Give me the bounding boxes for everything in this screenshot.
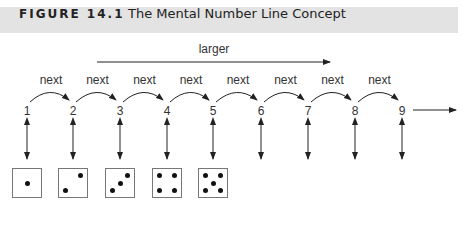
number-to-quantity-links xyxy=(27,124,402,159)
number-5: 5 xyxy=(210,104,217,118)
next-arc-7 xyxy=(311,92,351,102)
pip xyxy=(172,188,177,193)
pip xyxy=(172,173,177,178)
pip xyxy=(203,188,208,193)
die-2 xyxy=(58,168,88,198)
next-arc-3 xyxy=(123,92,163,102)
number-3: 3 xyxy=(117,104,124,118)
pip xyxy=(125,173,130,178)
pip xyxy=(157,173,162,178)
pip xyxy=(63,188,68,193)
next-label: next xyxy=(227,73,250,87)
next-arc-2 xyxy=(76,92,116,102)
number-6: 6 xyxy=(258,104,265,118)
next-label: next xyxy=(133,73,156,87)
die-4 xyxy=(152,168,182,198)
die-3 xyxy=(105,168,135,198)
pip xyxy=(211,181,216,186)
number-4: 4 xyxy=(164,104,171,118)
pip xyxy=(25,181,30,186)
number-1: 1 xyxy=(24,104,31,118)
number-9: 9 xyxy=(399,104,406,118)
die-5 xyxy=(198,168,228,198)
pip xyxy=(110,188,115,193)
next-arc-5 xyxy=(216,92,257,102)
next-arc-4 xyxy=(170,92,209,102)
number-2: 2 xyxy=(70,104,77,118)
next-label: next xyxy=(274,73,297,87)
next-arc-6 xyxy=(264,92,304,102)
number-7: 7 xyxy=(305,104,312,118)
pip xyxy=(78,173,83,178)
pip xyxy=(218,188,223,193)
next-label: next xyxy=(368,73,391,87)
next-label: next xyxy=(180,73,203,87)
larger-label: larger xyxy=(199,42,230,56)
next-arcs xyxy=(30,92,398,102)
number-8: 8 xyxy=(352,104,359,118)
next-label: next xyxy=(86,73,109,87)
pip xyxy=(218,173,223,178)
pip xyxy=(157,188,162,193)
pip xyxy=(203,173,208,178)
die-1 xyxy=(12,168,42,198)
pip xyxy=(118,181,123,186)
next-arc-8 xyxy=(358,92,398,102)
next-arc-1 xyxy=(30,92,69,102)
next-label: next xyxy=(40,73,63,87)
next-label: next xyxy=(321,73,344,87)
